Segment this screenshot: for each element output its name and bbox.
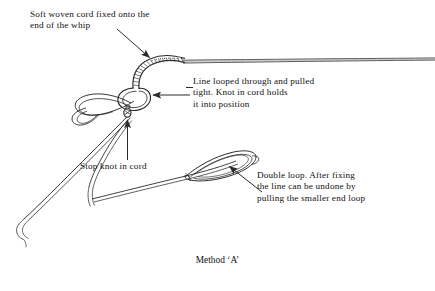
- annotation-line-looped-through: Line looped through and pulled tight. Kn…: [193, 76, 314, 110]
- annotation-soft-woven-cord: Soft woven cord fixed onto the end of th…: [30, 9, 150, 32]
- braided-cord: [133, 56, 185, 89]
- figure-page: Soft woven cord fixed onto the end of th…: [0, 0, 435, 291]
- whip-knot-illustration: [0, 0, 435, 291]
- annotation-stop-knot-in-cord: Stop knot in cord: [80, 161, 147, 172]
- leader-arrow-cord: [117, 29, 150, 58]
- whip-shaft: [183, 58, 435, 63]
- annotation-double-loop: Double loop. After fixing the line can b…: [257, 170, 365, 204]
- figure-caption: Method ‘A’: [0, 255, 435, 265]
